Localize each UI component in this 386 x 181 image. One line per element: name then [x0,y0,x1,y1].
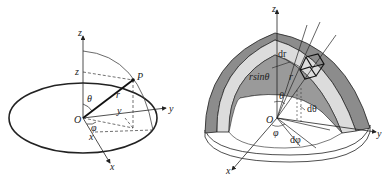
label-x-axis: x [109,161,115,172]
label-rsin-theta: rsinθ [249,71,270,82]
label-point: P [136,71,143,82]
label-y-axis: y [168,103,174,114]
right-figure: z y x O dr rsinθ r θ dθ φ dφ [205,3,382,176]
label-theta: θ [87,93,92,104]
label-y-axis-right: y [376,128,382,139]
label-r-right: r [289,71,293,82]
label-proj-z: z [74,66,79,77]
label-origin-right: O [266,114,273,125]
label-z-axis: z [77,27,82,38]
label-theta-right: θ [279,90,284,101]
label-x-axis-right: x [225,165,231,176]
label-phi-right: φ [273,127,279,138]
label-proj-x: x [88,131,94,142]
point-p-dot [131,78,135,82]
label-dtheta: dθ [307,103,317,114]
label-z-axis-right: z [271,3,276,14]
label-radius: r [116,89,120,100]
spherical-coordinates-diagram: z y x O P r θ φ z y x [0,0,386,181]
label-origin: O [74,114,81,125]
left-figure: z y x O P r θ φ z y x [9,27,174,172]
label-dphi: dφ [290,134,301,145]
label-proj-y: y [116,105,122,116]
theta-arc [83,104,92,111]
label-dr: dr [278,48,287,59]
